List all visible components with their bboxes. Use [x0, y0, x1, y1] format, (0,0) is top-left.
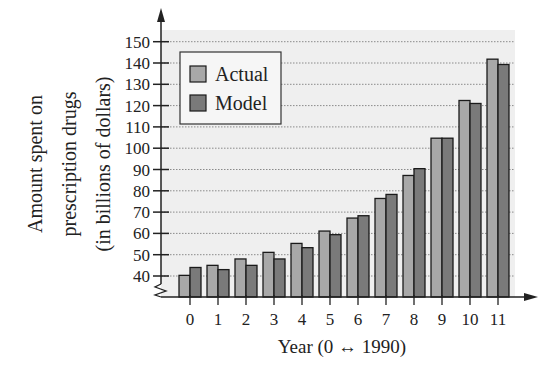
x-tick-label: 6 — [354, 310, 363, 329]
bar-actual — [403, 175, 414, 297]
legend-label-model: Model — [215, 92, 268, 114]
bar-model — [302, 248, 313, 297]
bar-actual — [375, 198, 386, 297]
x-tick-label: 10 — [462, 310, 479, 329]
y-tick-label: 60 — [133, 224, 150, 243]
y-tick-label: 70 — [133, 203, 150, 222]
bar-actual — [291, 243, 302, 297]
y-tick-label: 110 — [125, 118, 150, 137]
legend-label-actual: Actual — [215, 63, 269, 85]
y-axis-label-line: prescription drugs — [58, 91, 81, 236]
y-tick-label: 130 — [125, 75, 151, 94]
y-tick-label: 140 — [125, 54, 151, 73]
bar-actual — [319, 231, 330, 297]
bar-model — [470, 103, 481, 297]
x-tick-label: 0 — [186, 310, 195, 329]
y-tick-label: 150 — [125, 33, 151, 52]
bar-model — [414, 169, 425, 297]
bar-model — [358, 216, 369, 297]
bar-model — [330, 235, 341, 297]
bar-actual — [459, 100, 470, 297]
x-tick-label: 2 — [242, 310, 251, 329]
x-tick-label: 3 — [270, 310, 279, 329]
x-axis-arrow-icon — [524, 293, 538, 301]
bar-model — [218, 270, 229, 297]
x-tick-label: 9 — [438, 310, 447, 329]
bar-model — [246, 265, 257, 297]
y-tick-label: 120 — [125, 97, 151, 116]
bar-model — [498, 64, 509, 297]
y-axis-arrow-icon — [157, 8, 165, 22]
bar-chart: 4050607080901001101201301401500123456789… — [0, 0, 549, 378]
y-tick-label: 40 — [133, 267, 150, 286]
bar-actual — [207, 265, 218, 297]
y-tick-label: 80 — [133, 182, 150, 201]
bar-actual — [431, 138, 442, 297]
y-tick-label: 90 — [133, 161, 150, 180]
legend-swatch-model — [190, 95, 206, 111]
bar-actual — [263, 252, 274, 297]
bar-model — [274, 259, 285, 297]
bar-model — [386, 194, 397, 297]
x-tick-label: 11 — [490, 310, 506, 329]
bar-actual — [487, 59, 498, 297]
bar-model — [442, 138, 453, 297]
x-tick-label: 5 — [326, 310, 335, 329]
x-tick-label: 7 — [382, 310, 391, 329]
y-tick-label: 100 — [125, 139, 151, 158]
bar-model — [190, 267, 201, 297]
legend-swatch-actual — [190, 66, 206, 82]
y-axis-label-line: Amount spent on — [24, 95, 47, 233]
x-tick-label: 1 — [214, 310, 223, 329]
x-axis-label: Year (0 ↔ 1990) — [278, 336, 406, 358]
bar-actual — [179, 275, 190, 297]
y-tick-label: 50 — [133, 246, 150, 265]
bar-actual — [235, 259, 246, 297]
x-tick-label: 4 — [298, 310, 307, 329]
x-tick-label: 8 — [410, 310, 419, 329]
bar-actual — [347, 218, 358, 297]
y-axis-label-line: (in billions of dollars) — [92, 77, 115, 252]
